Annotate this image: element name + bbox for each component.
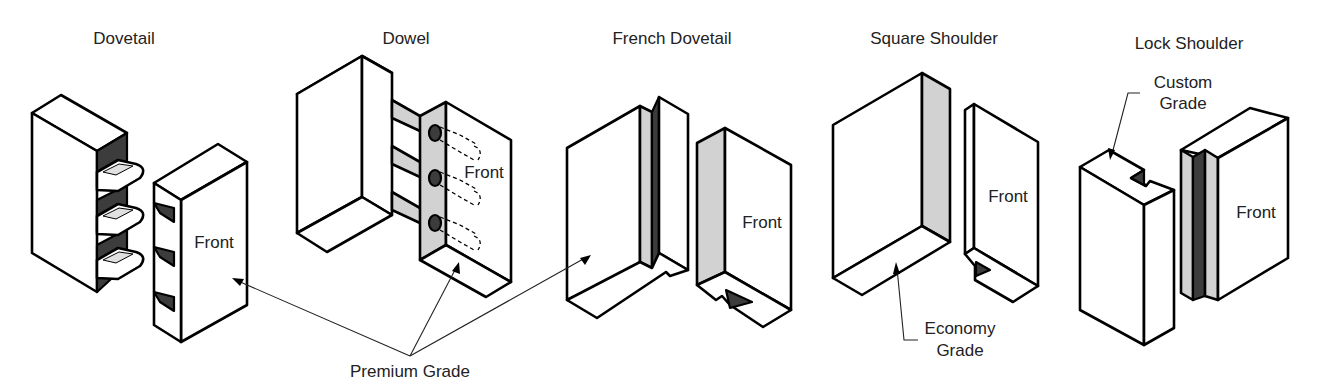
french-dovetail-side-piece [567,97,688,318]
square-shoulder-side-piece [833,73,950,295]
dowel-joint: Dowel Front [297,29,511,297]
square-shoulder-front-label: Front [988,187,1028,206]
custom-grade-label-line2: Grade [1159,94,1206,113]
economy-grade-label-line1: Economy [925,319,996,338]
dowel-title: Dowel [382,29,429,48]
lock-shoulder-side-piece [1080,150,1174,345]
premium-grade-leaders [232,255,591,356]
french-dovetail-title: French Dovetail [612,29,731,48]
economy-grade-leader [893,262,918,340]
french-dovetail-joint: French Dovetail Front [567,29,791,327]
lock-shoulder-front-piece: Front [1181,108,1288,300]
square-shoulder-joint: Square Shoulder Front [833,29,1038,302]
dowel-side-piece [297,56,392,252]
square-shoulder-front-piece: Front [965,104,1038,302]
lock-shoulder-front-label: Front [1236,203,1276,222]
custom-grade-leader [1108,93,1140,160]
dovetail-side-piece [32,95,143,292]
economy-grade-label-line2: Grade [936,341,983,360]
french-dovetail-front-label: Front [742,213,782,232]
dovetail-joint: Dovetail Front [32,29,247,342]
dowel-front-label: Front [464,163,504,182]
dovetail-front-piece: Front [154,144,247,342]
premium-grade-label: Premium Grade [350,362,470,381]
dovetail-front-label: Front [194,233,234,252]
square-shoulder-title: Square Shoulder [870,29,998,48]
custom-grade-label-line1: Custom [1154,73,1213,92]
dowel-front-piece: Front [420,102,511,297]
lock-shoulder-title: Lock Shoulder [1135,34,1244,53]
french-dovetail-front-piece: Front [697,128,791,327]
dovetail-title: Dovetail [93,29,154,48]
drawer-joint-diagram: Dovetail Front Do [0,0,1317,388]
